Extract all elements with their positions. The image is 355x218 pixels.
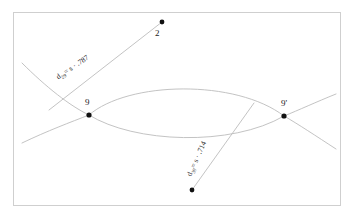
point-bottom-dot — [190, 188, 195, 193]
geometry-figure: 2 9 9' d29= s · .787 d39= s · .714 — [0, 0, 355, 218]
point-9-prime-dot — [281, 113, 286, 118]
figure-canvas — [0, 0, 355, 218]
figure-border — [14, 13, 341, 206]
point-9-dot — [86, 112, 91, 117]
point-2-dot — [160, 20, 165, 25]
